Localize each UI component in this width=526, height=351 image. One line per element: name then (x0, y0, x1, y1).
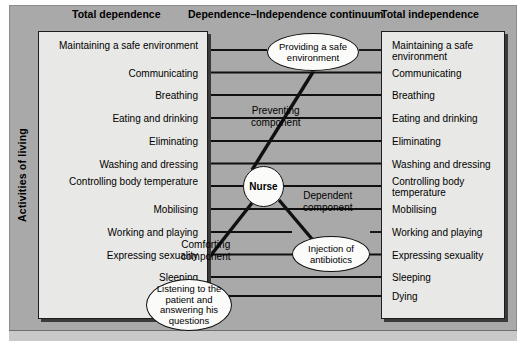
node-injection-of-antibiotics[interactable]: Injection of antibiotics (292, 236, 370, 272)
activity-row: Working and playing (382, 227, 504, 239)
total-dependence-box: Maintaining a safe environmentCommunicat… (38, 31, 208, 319)
activity-row: Mobilising (39, 204, 207, 216)
node-listening-to-patient[interactable]: Listening to the patient and answering h… (146, 279, 232, 331)
activity-row: Eliminating (382, 136, 504, 148)
activity-row: Expressing sexuality (382, 250, 504, 262)
activity-row: Mobilising (382, 204, 504, 216)
header-continuum: Dependence–Independence continuum (188, 8, 383, 20)
caption-comforting-component: Comfortingcomponent (181, 239, 230, 263)
total-independence-box: Maintaining a safe environmentCommunicat… (381, 31, 505, 319)
activity-row: Controlling body temperature (39, 176, 207, 199)
activity-row: Maintaining a safe environment (382, 40, 504, 63)
activity-row: Breathing (382, 90, 504, 102)
left-activity-list: Maintaining a safe environmentCommunicat… (39, 32, 207, 318)
vertical-axis-label-text: Activities of living (16, 128, 28, 222)
node-providing-safe-environment[interactable]: Providing a safe environment (267, 33, 359, 71)
activity-row: Washing and dressing (39, 159, 207, 171)
activity-row: Washing and dressing (382, 159, 504, 171)
header-total-independence: Total independence (381, 8, 479, 20)
activity-row: Communicating (39, 68, 207, 80)
panel-bottom-strip (9, 330, 517, 341)
caption-dependent-component: Dependentcomponent (303, 190, 352, 214)
header-total-dependence: Total dependence (72, 8, 161, 20)
activity-row: Eating and drinking (382, 113, 504, 125)
activity-row: Maintaining a safe environment (39, 40, 207, 63)
activity-row: Eating and drinking (39, 113, 207, 125)
right-activity-list: Maintaining a safe environmentCommunicat… (382, 32, 504, 318)
activity-row: Communicating (382, 68, 504, 80)
rlt-model-diagram: Activities of living Total dependence De… (0, 0, 526, 351)
activity-row: Dying (382, 291, 504, 303)
activity-row: Breathing (39, 90, 207, 102)
activity-row: Working and playing (39, 227, 207, 239)
activity-row: Eliminating (39, 136, 207, 148)
vertical-axis-label: Activities of living (11, 90, 33, 260)
caption-preventing-component: Preventingcomponent (251, 105, 300, 129)
activity-row: Sleeping (382, 272, 504, 284)
activity-row: Controlling body temperature (382, 176, 504, 199)
node-nurse[interactable]: Nurse (243, 166, 284, 207)
